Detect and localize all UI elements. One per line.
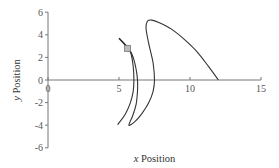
- y-tick-label: 4: [38, 29, 43, 40]
- y-axis-title: y Position: [11, 58, 22, 101]
- x-tick-label: 5: [117, 83, 122, 94]
- y-tick-label: -6: [35, 142, 43, 153]
- y-tick-label: -2: [35, 97, 43, 108]
- x-axis-title: x Position: [133, 153, 176, 164]
- x-tick-label: 10: [185, 83, 195, 94]
- trajectory-line: [118, 20, 219, 125]
- trajectory-chart: -6-4-20246051015x Positiony Position: [0, 0, 279, 168]
- x-tick-label: 15: [256, 83, 266, 94]
- y-tick-label: 0: [38, 75, 43, 86]
- plot-area: -6-4-20246051015x Positiony Position: [11, 7, 266, 164]
- y-tick-label: 6: [38, 7, 43, 18]
- start-marker: [125, 45, 131, 51]
- x-tick-label: 0: [46, 83, 51, 94]
- y-tick-label: -4: [35, 120, 43, 131]
- y-tick-label: 2: [38, 52, 43, 63]
